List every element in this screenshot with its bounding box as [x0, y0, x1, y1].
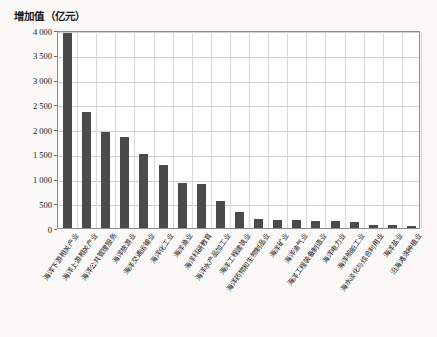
- bar: [139, 154, 148, 228]
- x-axis-labels: 海洋下游相关产业海洋上游相关产业海洋公共管理服务海洋旅游业海洋交通运输业海洋化工…: [57, 231, 420, 335]
- y-axis-tick-label: 3 500: [33, 51, 52, 61]
- bar: [331, 221, 340, 228]
- y-axis-tick-label: 4 000: [33, 27, 52, 37]
- y-axis-tick-label: 2 500: [33, 101, 52, 111]
- y-axis-tick-label: 0: [48, 225, 52, 235]
- y-axis-tick-label: 500: [39, 200, 52, 210]
- bar: [369, 225, 378, 228]
- y-axis-tick-label: 1 000: [33, 175, 52, 185]
- bar: [120, 137, 129, 228]
- y-axis-tick-label: 2 000: [33, 126, 52, 136]
- bar-series: [58, 32, 419, 228]
- bar: [388, 225, 397, 228]
- y-axis-tick-label: 3 000: [33, 76, 52, 86]
- bar: [82, 112, 91, 228]
- y-axis-ticks: 05001 0001 5002 0002 5003 0003 5004 000: [0, 31, 57, 229]
- bar: [407, 226, 416, 228]
- bar: [292, 220, 301, 228]
- bar: [159, 165, 168, 228]
- bar: [178, 183, 187, 228]
- bar: [235, 212, 244, 228]
- chart-figure: 增加值（亿元） 05001 0001 5002 0002 5003 0003 5…: [0, 0, 437, 337]
- gridline-vertical: [421, 32, 422, 228]
- bar: [254, 219, 263, 228]
- bar: [311, 221, 320, 228]
- y-axis-tick-label: 1 500: [33, 150, 52, 160]
- bar: [101, 132, 110, 228]
- bar: [216, 201, 225, 228]
- plot-wrapper: [57, 31, 420, 229]
- bar: [197, 184, 206, 228]
- bar: [350, 222, 359, 228]
- bar: [63, 33, 72, 228]
- y-axis-tick-mark: [54, 229, 57, 230]
- plot-area: [57, 31, 420, 229]
- bar: [273, 220, 282, 228]
- y-axis-title: 增加值（亿元）: [14, 8, 85, 23]
